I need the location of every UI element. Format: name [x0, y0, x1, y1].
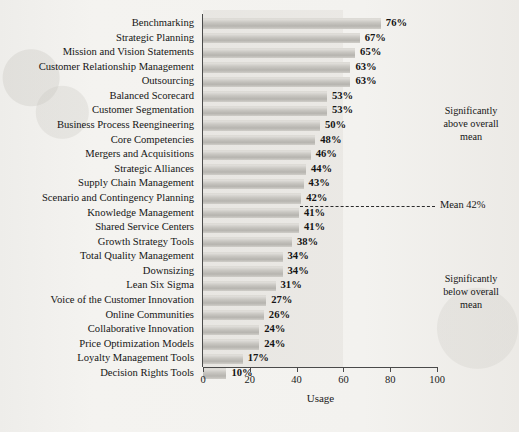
bar-value-label: 63%: [355, 74, 376, 89]
bar: [203, 62, 350, 72]
x-axis-tick-label: 100: [417, 374, 457, 385]
annotation-below-line-3: mean: [428, 298, 514, 311]
category-label: Voice of the Customer Innovation: [51, 293, 194, 308]
category-label: Customer Relationship Management: [39, 60, 194, 75]
bar-value-label: 48%: [320, 133, 341, 148]
bar: [203, 77, 350, 87]
category-label: Shared Service Centers: [95, 220, 194, 235]
annotation-above-line-3: mean: [428, 130, 514, 143]
bar-row: Shared Service Centers41%: [0, 220, 519, 235]
bar: [203, 120, 320, 130]
category-label: Strategic Alliances: [114, 162, 194, 177]
category-label: Mergers and Acquisitions: [85, 147, 194, 162]
bar-value-label: 44%: [311, 162, 332, 177]
bar-value-label: 63%: [355, 60, 376, 75]
category-label: Mission and Vision Statements: [63, 45, 194, 60]
bar: [203, 33, 360, 43]
bar: [203, 91, 327, 101]
category-label: Balanced Scorecard: [110, 89, 194, 104]
bar-row: Balanced Scorecard53%: [0, 89, 519, 104]
bar: [203, 193, 301, 203]
bar: [203, 295, 266, 305]
bar-value-label: 53%: [332, 103, 353, 118]
bar-value-label: 46%: [316, 147, 337, 162]
bar-value-label: 76%: [386, 16, 407, 31]
bar-value-label: 38%: [297, 235, 318, 250]
bar: [203, 150, 311, 160]
bar-row: Benchmarking76%: [0, 16, 519, 31]
bar-row: Mergers and Acquisitions46%: [0, 147, 519, 162]
category-label: Online Communities: [105, 308, 194, 323]
annotation-above-line-1: Significantly: [428, 104, 514, 117]
bar-row: Price Optimization Models24%: [0, 337, 519, 352]
bar: [203, 310, 264, 320]
bar-value-label: 41%: [304, 220, 325, 235]
category-label: Customer Segmentation: [92, 103, 194, 118]
category-label: Decision Rights Tools: [100, 366, 194, 381]
bar: [203, 135, 315, 145]
bar-value-label: 24%: [264, 337, 285, 352]
bar: [203, 339, 259, 349]
bar-value-label: 50%: [325, 118, 346, 133]
x-axis-tick-label: 0: [183, 374, 223, 385]
annotation-above-mean: Significantly above overall mean: [428, 104, 514, 143]
category-label: Supply Chain Management: [78, 176, 194, 191]
bar: [203, 208, 299, 218]
category-label: Growth Strategy Tools: [98, 235, 194, 250]
bar-row: Collaborative Innovation24%: [0, 322, 519, 337]
bar: [203, 179, 304, 189]
bar-value-label: 34%: [288, 249, 309, 264]
bar: [203, 281, 276, 291]
bar-value-label: 17%: [248, 351, 269, 366]
bar-row: Total Quality Management34%: [0, 249, 519, 264]
x-axis-tick: [203, 367, 204, 372]
x-axis-tick: [250, 367, 251, 372]
bar-value-label: 43%: [309, 176, 330, 191]
bar-value-label: 24%: [264, 322, 285, 337]
bar-value-label: 41%: [304, 206, 325, 221]
bar: [203, 252, 283, 262]
bar-value-label: 67%: [365, 31, 386, 46]
bar-row: Strategic Alliances44%: [0, 162, 519, 177]
bar: [203, 237, 292, 247]
x-axis-tick-label: 60: [323, 374, 363, 385]
annotation-below-line-1: Significantly: [428, 272, 514, 285]
category-label: Business Process Reengineering: [57, 118, 194, 133]
bar-row: Outsourcing63%: [0, 74, 519, 89]
bar-value-label: 34%: [288, 264, 309, 279]
category-label: Scenario and Contingency Planning: [42, 191, 194, 206]
bar: [203, 354, 243, 364]
bar: [203, 48, 355, 58]
mean-reference-label: Mean 42%: [440, 199, 485, 210]
x-axis-tick: [297, 367, 298, 372]
category-label: Price Optimization Models: [79, 337, 194, 352]
bar-value-label: 42%: [306, 191, 327, 206]
bar: [203, 325, 259, 335]
bar-row: Loyalty Management Tools17%: [0, 351, 519, 366]
annotation-below-line-2: below overall: [428, 285, 514, 298]
bar-row: Customer Relationship Management63%: [0, 60, 519, 75]
x-axis-tick-label: 40: [277, 374, 317, 385]
mean-reference-line: [300, 206, 435, 207]
annotation-above-line-2: above overall: [428, 117, 514, 130]
bar-value-label: 53%: [332, 89, 353, 104]
bar-row: Growth Strategy Tools38%: [0, 235, 519, 250]
category-label: Lean Six Sigma: [126, 278, 194, 293]
bar-row: Strategic Planning67%: [0, 31, 519, 46]
category-label: Total Quality Management: [80, 249, 194, 264]
category-label: Core Competencies: [111, 133, 194, 148]
category-label: Downsizing: [143, 264, 194, 279]
category-label: Loyalty Management Tools: [77, 351, 194, 366]
bar: [203, 223, 299, 233]
category-label: Knowledge Management: [87, 206, 194, 221]
bar: [203, 18, 381, 28]
x-axis-label: Usage: [203, 392, 438, 404]
x-axis-tick: [390, 367, 391, 372]
x-axis-tick: [437, 367, 438, 372]
bar-row: Mission and Vision Statements65%: [0, 45, 519, 60]
bar-value-label: 31%: [281, 278, 302, 293]
bar-value-label: 27%: [271, 293, 292, 308]
category-label: Outsourcing: [142, 74, 194, 89]
bar-row: Supply Chain Management43%: [0, 176, 519, 191]
x-axis-tick-label: 20: [230, 374, 270, 385]
